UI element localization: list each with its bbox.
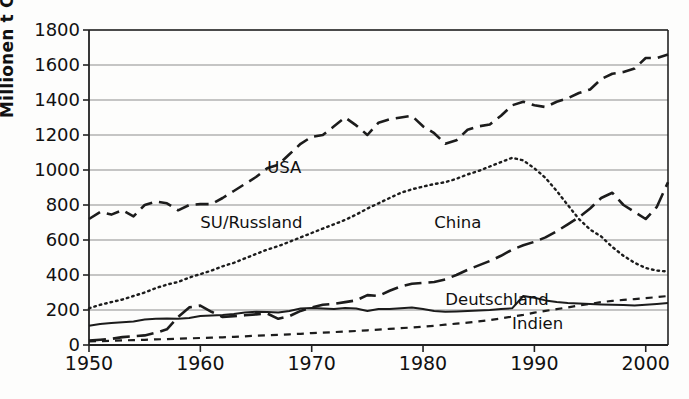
series-label-china: China bbox=[434, 213, 481, 232]
axis-frame bbox=[89, 30, 668, 345]
series-label-deutschland: Deutschland bbox=[445, 290, 549, 309]
plot-canvas bbox=[0, 0, 689, 399]
emissions-line-chart: Millionen t C 02004006008001000120014001… bbox=[0, 0, 689, 399]
series-line-deutschland bbox=[89, 296, 668, 326]
series-label-indien: Indien bbox=[512, 314, 563, 333]
data-series bbox=[89, 55, 668, 342]
axis-ticks bbox=[83, 30, 646, 352]
gridlines bbox=[89, 30, 668, 310]
series-line-su-russland bbox=[89, 158, 668, 308]
series-label-su-russland: SU/Russland bbox=[200, 213, 302, 232]
series-line-usa bbox=[89, 55, 668, 220]
series-label-usa: USA bbox=[267, 158, 301, 177]
series-line-china bbox=[89, 182, 668, 340]
